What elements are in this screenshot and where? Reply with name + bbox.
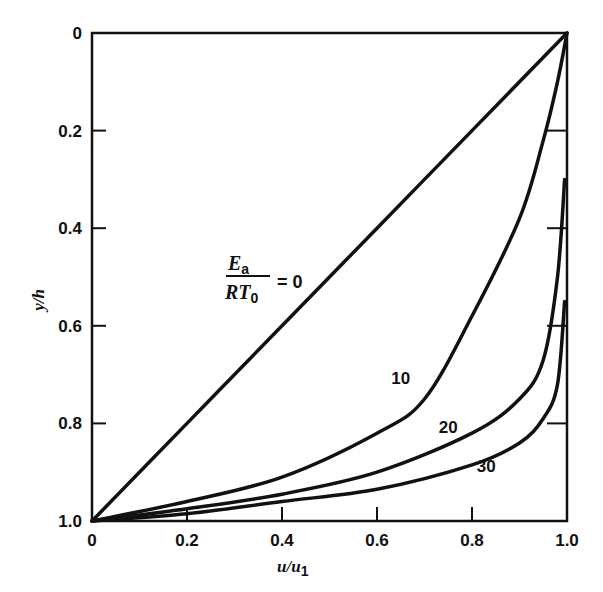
y-tick-label: 0.8 [58,414,82,433]
chart-canvas: 00.20.40.60.81.000.20.40.60.81.0 102030 … [0,0,603,592]
curve-30 [92,301,565,521]
y-axis-label: y/h [29,289,48,313]
x-axis-label: u/u1 [277,557,309,579]
x-tick-label: 0 [87,531,96,550]
y-tick-label: 0.6 [58,317,82,336]
x-tick-label: 0.8 [460,531,484,550]
parameter-label: Ea RT0 = 0 [224,252,303,306]
curves [92,33,567,521]
curve-0 [92,33,567,521]
x-tick-label: 1.0 [555,531,579,550]
y-tick-label: 0.4 [58,219,82,238]
x-tick-label: 0.2 [175,531,199,550]
param-numerator: Ea [227,252,249,277]
x-tick-label: 0.6 [365,531,389,550]
y-tick-label: 0.2 [58,122,82,141]
param-denominator: RT0 [224,281,259,306]
axis-ticks [92,131,567,521]
x-tick-label: 0.4 [270,531,294,550]
curve-label-30: 30 [477,457,496,476]
curve-label-10: 10 [391,369,410,388]
y-tick-label: 0 [73,24,82,43]
curve-label-20: 20 [439,418,458,437]
y-tick-label: 1.0 [58,512,82,531]
param-equals: = 0 [277,272,303,292]
